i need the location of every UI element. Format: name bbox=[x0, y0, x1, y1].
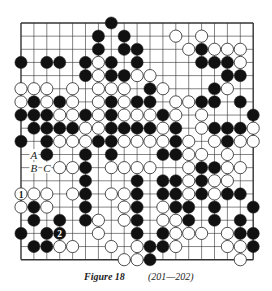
black-stone bbox=[157, 227, 169, 239]
white-stone bbox=[183, 227, 195, 239]
black-stone bbox=[157, 240, 169, 252]
white-stone bbox=[118, 135, 130, 147]
white-stone bbox=[79, 122, 91, 134]
black-stone bbox=[170, 135, 182, 147]
black-stone bbox=[131, 122, 143, 134]
white-stone bbox=[221, 175, 233, 187]
white-stone bbox=[105, 162, 117, 174]
white-stone bbox=[118, 214, 130, 226]
black-stone bbox=[79, 188, 91, 200]
white-stone bbox=[234, 240, 246, 252]
white-stone bbox=[170, 109, 182, 121]
black-stone bbox=[144, 83, 156, 95]
black-stone bbox=[131, 214, 143, 226]
black-stone bbox=[118, 70, 130, 82]
black-stone bbox=[92, 43, 104, 55]
white-stone bbox=[92, 96, 104, 108]
white-stone bbox=[67, 135, 79, 147]
white-stone bbox=[234, 43, 246, 55]
black-stone bbox=[157, 148, 169, 160]
black-stone bbox=[157, 175, 169, 187]
white-stone bbox=[79, 135, 91, 147]
white-stone bbox=[15, 83, 27, 95]
black-stone bbox=[105, 70, 117, 82]
white-stone bbox=[157, 135, 169, 147]
white-stone bbox=[41, 96, 53, 108]
black-stone bbox=[79, 148, 91, 160]
white-stone bbox=[118, 83, 130, 95]
black-stone bbox=[208, 162, 220, 174]
white-stone bbox=[234, 162, 246, 174]
white-stone bbox=[170, 96, 182, 108]
black-stone bbox=[247, 109, 259, 121]
white-stone bbox=[234, 135, 246, 147]
black-stone bbox=[196, 43, 208, 55]
black-stone bbox=[15, 109, 27, 121]
black-stone bbox=[15, 227, 27, 239]
white-stone bbox=[67, 109, 79, 121]
white-stone bbox=[92, 83, 104, 95]
white-stone bbox=[208, 43, 220, 55]
white-stone bbox=[67, 240, 79, 252]
white-stone bbox=[221, 162, 233, 174]
figure-caption: Figure 18 (201—202) bbox=[0, 271, 272, 287]
white-stone bbox=[131, 135, 143, 147]
white-stone bbox=[247, 122, 259, 134]
black-stone bbox=[170, 188, 182, 200]
black-stone bbox=[28, 214, 40, 226]
white-stone bbox=[247, 135, 259, 147]
white-stone bbox=[208, 135, 220, 147]
white-stone bbox=[131, 240, 143, 252]
black-stone bbox=[54, 96, 66, 108]
white-stone bbox=[28, 83, 40, 95]
white-stone bbox=[208, 175, 220, 187]
black-stone bbox=[170, 175, 182, 187]
white-stone bbox=[183, 96, 195, 108]
black-stone bbox=[170, 122, 182, 134]
white-stone bbox=[170, 214, 182, 226]
black-stone bbox=[196, 175, 208, 187]
white-stone bbox=[118, 96, 130, 108]
black-stone bbox=[234, 122, 246, 134]
black-stone bbox=[54, 56, 66, 68]
white-stone bbox=[92, 227, 104, 239]
white-stone bbox=[105, 188, 117, 200]
black-stone bbox=[41, 56, 53, 68]
go-board: 12 ABC bbox=[0, 0, 272, 275]
white-stone bbox=[183, 175, 195, 187]
black-stone bbox=[79, 214, 91, 226]
black-stone bbox=[79, 201, 91, 213]
black-stone bbox=[54, 214, 66, 226]
move-range: (201—202) bbox=[148, 271, 194, 282]
white-stone bbox=[234, 254, 246, 266]
white-stone bbox=[170, 240, 182, 252]
white-stone bbox=[54, 135, 66, 147]
black-stone bbox=[144, 240, 156, 252]
white-stone bbox=[183, 135, 195, 147]
white-stone bbox=[67, 83, 79, 95]
black-stone bbox=[196, 56, 208, 68]
black-stone bbox=[15, 56, 27, 68]
white-stone bbox=[15, 96, 27, 108]
white-stone bbox=[105, 240, 117, 252]
black-stone bbox=[79, 109, 91, 121]
move-number: 1 bbox=[19, 190, 24, 200]
black-stone bbox=[144, 254, 156, 266]
black-stone bbox=[221, 122, 233, 134]
move-number: 2 bbox=[57, 229, 62, 239]
black-stone bbox=[41, 135, 53, 147]
white-stone bbox=[28, 188, 40, 200]
black-stone bbox=[28, 109, 40, 121]
black-stone bbox=[208, 201, 220, 213]
white-stone bbox=[67, 188, 79, 200]
white-stone bbox=[118, 109, 130, 121]
white-stone bbox=[131, 70, 143, 82]
black-stone bbox=[131, 96, 143, 108]
black-stone bbox=[183, 214, 195, 226]
white-stone bbox=[157, 83, 169, 95]
black-stone bbox=[105, 17, 117, 29]
white-stone bbox=[221, 227, 233, 239]
white-stone bbox=[221, 240, 233, 252]
white-stone bbox=[54, 109, 66, 121]
black-stone bbox=[234, 96, 246, 108]
